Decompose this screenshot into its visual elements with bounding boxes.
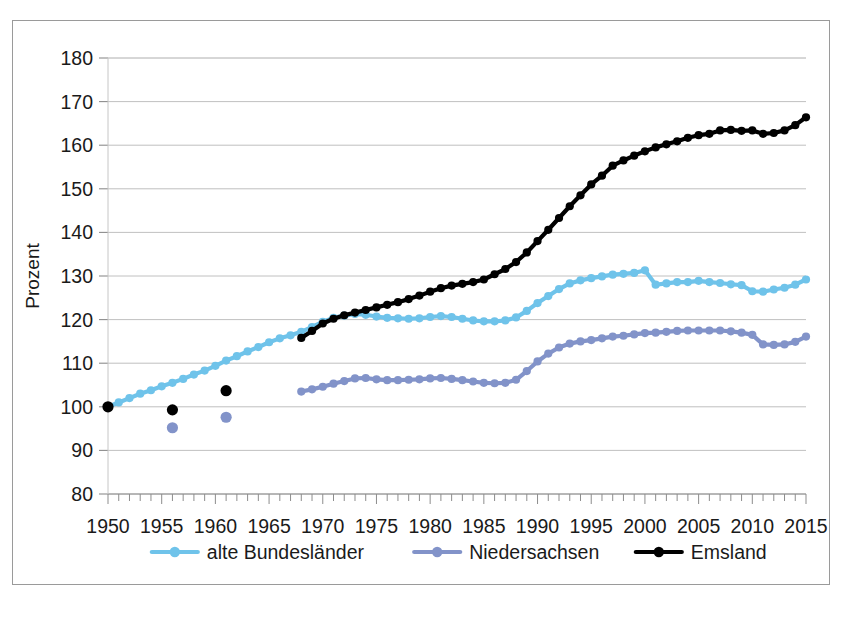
data-point-marker	[222, 356, 230, 364]
data-point-marker	[501, 379, 509, 387]
data-point-marker	[619, 156, 627, 164]
data-point-marker	[533, 237, 541, 245]
data-point-marker	[791, 338, 799, 346]
data-point-marker	[179, 375, 187, 383]
data-point-marker	[512, 313, 520, 321]
data-point-marker	[619, 332, 627, 340]
data-point-marker	[641, 147, 649, 155]
y-axis-label-group: Prozent	[22, 243, 43, 309]
data-point-marker	[158, 382, 166, 390]
data-point-marker	[716, 126, 724, 134]
data-point-marker	[802, 275, 810, 283]
data-point-marker	[448, 375, 456, 383]
data-point-marker	[566, 202, 574, 210]
chart-legend: alte BundesländerNiedersachsenEmsland	[152, 541, 767, 563]
data-point-marker	[609, 271, 617, 279]
data-point-marker	[415, 375, 423, 383]
data-point-marker	[555, 285, 563, 293]
data-point-marker	[587, 336, 595, 344]
data-point-marker	[201, 367, 209, 375]
data-point-marker	[405, 376, 413, 384]
data-point-marker	[748, 287, 756, 295]
data-point-marker	[286, 331, 294, 339]
data-point-marker	[426, 374, 434, 382]
data-point-marker	[297, 334, 305, 342]
y-tick-labels-group: 8090100110120130140150160170180	[60, 47, 93, 505]
data-point-marker	[437, 374, 445, 382]
data-point-marker	[480, 379, 488, 387]
legend-item-alte-bundesl-nder[interactable]: alte Bundesländer	[152, 541, 365, 563]
x-tick-label: 1960	[194, 515, 238, 537]
legend-label: alte Bundesländer	[207, 541, 365, 563]
data-point-marker	[737, 127, 745, 135]
data-point-marker	[673, 137, 681, 145]
isolated-data-point-marker	[221, 385, 232, 396]
legend-swatch-marker	[432, 547, 442, 557]
y-tick-label: 80	[71, 483, 93, 505]
data-point-marker	[523, 367, 531, 375]
data-point-marker	[641, 329, 649, 337]
data-point-marker	[490, 317, 498, 325]
data-point-marker	[684, 326, 692, 334]
line-chart: 8090100110120130140150160170180 19501955…	[13, 21, 831, 586]
data-point-marker	[619, 270, 627, 278]
y-tick-label: 170	[60, 91, 93, 113]
data-point-marker	[426, 313, 434, 321]
data-point-marker	[727, 327, 735, 335]
data-point-marker	[705, 278, 713, 286]
chart-plot-area: 8090100110120130140150160170180 19501955…	[13, 21, 831, 586]
x-tick-label: 1970	[301, 515, 345, 537]
y-tick-label: 100	[60, 396, 93, 418]
data-point-marker	[415, 314, 423, 322]
data-point-marker	[458, 376, 466, 384]
data-point-marker	[351, 374, 359, 382]
isolated-data-point-marker	[167, 422, 178, 433]
series-alte-bundesl-nder	[104, 266, 810, 411]
data-point-marker	[190, 370, 198, 378]
data-point-marker	[684, 278, 692, 286]
y-tick-label: 120	[60, 309, 93, 331]
data-point-marker	[480, 275, 488, 283]
y-tick-label: 130	[60, 265, 93, 287]
data-point-marker	[576, 337, 584, 345]
data-point-marker	[394, 298, 402, 306]
legend-item-emsland[interactable]: Emsland	[636, 541, 767, 563]
x-tick-label: 2000	[623, 515, 667, 537]
data-point-marker	[748, 126, 756, 134]
data-point-marker	[469, 377, 477, 385]
data-point-marker	[254, 343, 262, 351]
y-tick-label: 180	[60, 47, 93, 69]
data-point-marker	[587, 274, 595, 282]
data-point-marker	[319, 319, 327, 327]
y-axis-title: Prozent	[22, 243, 43, 309]
data-point-marker	[394, 376, 402, 384]
data-point-marker	[727, 126, 735, 134]
isolated-data-point-marker	[167, 404, 178, 415]
data-point-marker	[372, 303, 380, 311]
legend-item-niedersachsen[interactable]: Niedersachsen	[414, 541, 599, 563]
y-tick-label: 140	[60, 221, 93, 243]
series-line	[108, 270, 806, 406]
data-point-marker	[533, 357, 541, 365]
data-point-marker	[759, 288, 767, 296]
data-point-marker	[695, 131, 703, 139]
data-point-marker	[673, 278, 681, 286]
x-tick-label: 1980	[408, 515, 452, 537]
data-point-marker	[405, 295, 413, 303]
data-point-marker	[351, 309, 359, 317]
data-point-marker	[544, 226, 552, 234]
legend-label: Niedersachsen	[469, 541, 599, 563]
data-point-marker	[125, 394, 133, 402]
data-point-marker	[566, 279, 574, 287]
data-point-marker	[770, 129, 778, 137]
data-point-marker	[168, 379, 176, 387]
data-point-marker	[469, 278, 477, 286]
data-point-marker	[598, 172, 606, 180]
data-point-marker	[469, 316, 477, 324]
y-tick-label: 90	[71, 439, 93, 461]
x-tick-label: 1955	[140, 515, 184, 537]
data-point-marker	[533, 299, 541, 307]
x-tick-label: 1990	[516, 515, 560, 537]
data-point-marker	[340, 377, 348, 385]
data-point-marker	[780, 340, 788, 348]
